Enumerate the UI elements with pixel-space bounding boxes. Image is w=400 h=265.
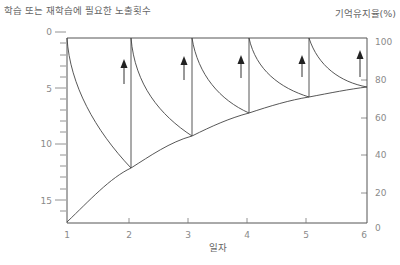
right-tick-40: 40: [375, 150, 387, 160]
x-tick-1: 1: [64, 230, 70, 240]
x-tick-5: 5: [303, 230, 309, 240]
right-tick-20: 20: [375, 188, 387, 198]
forgetting-curves: [67, 38, 367, 168]
up-arrow-icon: [121, 59, 128, 84]
up-arrow-icon: [181, 56, 188, 80]
x-tick-2: 2: [126, 230, 132, 240]
up-arrow-icon: [238, 55, 245, 78]
x-axis-title: 일자: [209, 242, 227, 253]
left-tick-5: 5: [46, 84, 52, 94]
right-axis-title: 기억유지율(%): [335, 8, 396, 19]
x-tick-3: 3: [185, 230, 191, 240]
left-axis: 0 5 10 15: [41, 27, 66, 211]
right-tick-100: 100: [375, 37, 392, 47]
left-tick-0: 0: [46, 27, 52, 37]
right-tick-60: 60: [375, 113, 387, 123]
left-tick-15: 15: [41, 196, 52, 206]
relearning-envelope-curve: [67, 87, 367, 222]
up-arrow-icon: [299, 55, 306, 77]
x-tick-6: 6: [361, 230, 367, 240]
left-tick-10: 10: [41, 139, 53, 149]
right-tick-80: 80: [375, 75, 387, 85]
x-tick-4: 4: [244, 230, 250, 240]
right-tick-0: 0: [375, 223, 381, 233]
left-axis-title: 학습 또는 재학습에 필요한 노출횟수: [4, 5, 151, 16]
forgetting-curve-chart: 학습 또는 재학습에 필요한 노출횟수 기억유지율(%) 0 5 10 15 1…: [0, 0, 400, 265]
right-axis: 100 80 60 40 20 0: [361, 37, 392, 233]
plot-frame: [67, 38, 367, 223]
up-arrow-icon: [357, 50, 364, 77]
